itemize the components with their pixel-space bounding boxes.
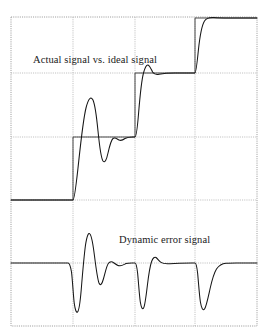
label-dynamic-error-signal: Dynamic error signal <box>119 234 210 245</box>
trace-dynamic-error-signal <box>11 233 257 312</box>
signal-plot-figure: Actual signal vs. ideal signal Dynamic e… <box>0 0 270 336</box>
plot-canvas <box>0 0 270 336</box>
trace-ideal-signal <box>11 18 257 200</box>
label-actual-vs-ideal-signal: Actual signal vs. ideal signal <box>33 54 157 65</box>
trace-actual-signal <box>11 17 257 200</box>
